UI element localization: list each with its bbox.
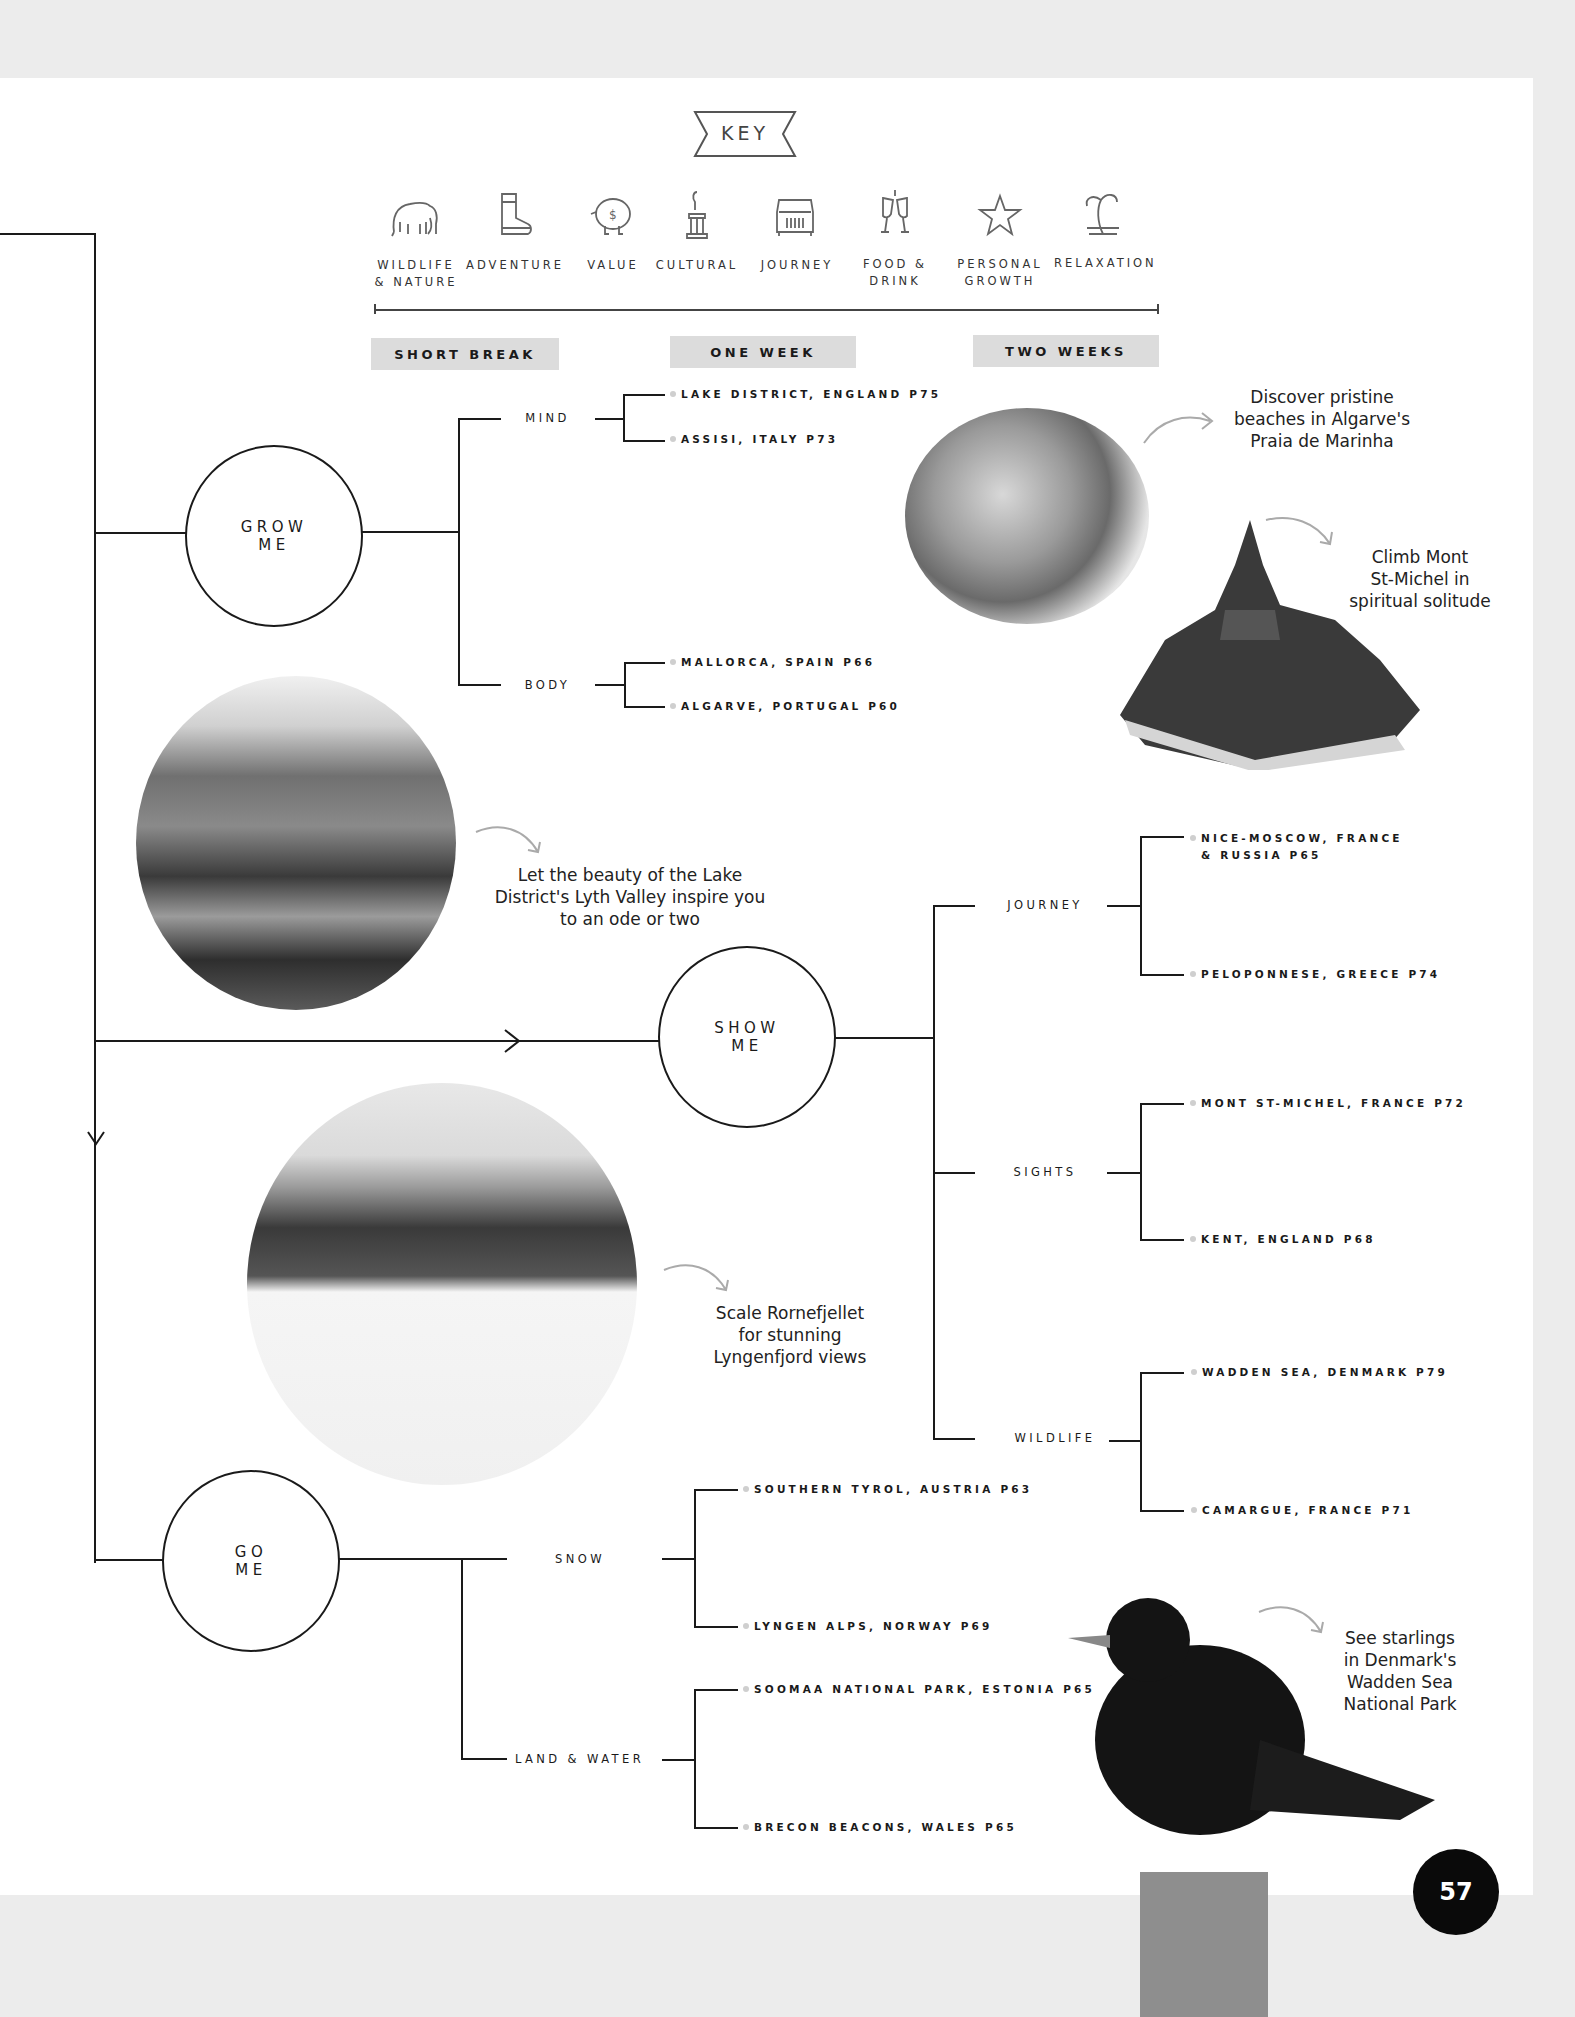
leaf-camargue[interactable]: CAMARGUE, FRANCE P71 (1191, 1504, 1413, 1516)
duration-scale-line (374, 309, 1158, 311)
bullet-dot (1190, 835, 1196, 841)
leaf-algarve[interactable]: ALGARVE, PORTUGAL P60 (670, 700, 900, 712)
key-label-personal-growth: PERSONALGROWTH (950, 256, 1050, 290)
bullet-dot (1190, 971, 1196, 977)
leaf-lake-district[interactable]: LAKE DISTRICT, ENGLAND P75 (670, 388, 941, 400)
branch-wildlife[interactable]: WILDLIFE (1000, 1431, 1110, 1445)
stub-leaf (694, 1689, 738, 1691)
connector-grow-right (362, 531, 460, 533)
node-grow-me[interactable]: GROWME (185, 445, 363, 627)
key-title: KEY (693, 122, 797, 144)
bullet-dot (670, 391, 676, 397)
stub-leaf (694, 1489, 738, 1491)
bracket-snow (694, 1489, 696, 1628)
bullet-dot (1190, 1100, 1196, 1106)
note-mont-st-michel: Climb MontSt-Michel inspiritual solitude (1330, 546, 1510, 612)
key-label-journey: JOURNEY (752, 257, 842, 274)
stub-leaf (694, 1827, 738, 1829)
bullet-dot (743, 1623, 749, 1629)
branch-mind[interactable]: MIND (505, 411, 590, 425)
bullet-dot (670, 703, 676, 709)
stub-leaf (694, 1626, 738, 1628)
stub-leaf (1140, 974, 1184, 976)
stub-leaf (1140, 1239, 1184, 1241)
leaf-lyngen-alps[interactable]: LYNGEN ALPS, NORWAY P69 (743, 1620, 993, 1632)
spine-entry (0, 233, 96, 235)
stub-body-out (595, 684, 624, 686)
bracket-wildlife (1140, 1372, 1142, 1512)
scale-tick-left (374, 304, 376, 314)
wine-glasses-icon (865, 188, 925, 244)
connector-go-left (94, 1559, 164, 1561)
note-lyngen: Scale Rornefjelletfor stunningLyngenfjor… (700, 1302, 880, 1368)
leaf-kent[interactable]: KENT, ENGLAND P68 (1190, 1233, 1376, 1245)
branch-snow[interactable]: SNOW (530, 1552, 630, 1566)
stub-body (458, 684, 501, 686)
duration-one-week: ONE WEEK (670, 336, 856, 368)
connector-grow-left (95, 532, 187, 534)
stub-leaf (1140, 1372, 1184, 1374)
branch-journey[interactable]: JOURNEY (985, 898, 1105, 912)
duration-short-break: SHORT BREAK (371, 338, 559, 370)
scale-tick-right (1157, 304, 1159, 314)
connector-go-right (339, 1558, 507, 1560)
note-starling: See starlingsin Denmark'sWadden SeaNatio… (1320, 1627, 1480, 1715)
stub-leaf (624, 706, 665, 708)
branch-body[interactable]: BODY (505, 678, 590, 692)
stub-mind (458, 418, 501, 420)
leaf-soomaa[interactable]: SOOMAA NATIONAL PARK, ESTONIA P65 (743, 1683, 1095, 1695)
stub-snow-out (662, 1558, 696, 1560)
bracket-go (461, 1558, 463, 1760)
bracket-journey (1140, 836, 1142, 976)
note-arrow-icon (660, 1260, 740, 1300)
leaf-southern-tyrol[interactable]: SOUTHERN TYROL, AUSTRIA P63 (743, 1483, 1032, 1495)
leaf-wadden-sea[interactable]: WADDEN SEA, DENMARK P79 (1191, 1366, 1448, 1378)
photo-lake-district (136, 676, 456, 1010)
leaf-mallorca[interactable]: MALLORCA, SPAIN P66 (670, 656, 875, 668)
node-show-me[interactable]: SHOWME (658, 946, 836, 1128)
bracket-sights (1140, 1103, 1142, 1241)
leaf-mont-st-michel[interactable]: MONT ST-MICHEL, FRANCE P72 (1190, 1097, 1466, 1109)
palm-tree-icon (1073, 186, 1133, 242)
stub-leaf (1140, 1510, 1184, 1512)
branch-sights[interactable]: SIGHTS (985, 1165, 1105, 1179)
stub-sights (933, 1172, 975, 1174)
stub-journey (933, 905, 975, 907)
leaf-nice-moscow[interactable]: NICE-MOSCOW, FRANCE& RUSSIA P65 (1190, 830, 1403, 864)
leaf-brecon-beacons[interactable]: BRECON BEACONS, WALES P65 (743, 1821, 1017, 1833)
leaf-assisi[interactable]: ASSISI, ITALY P73 (670, 433, 838, 445)
leaf-peloponnese[interactable]: PELOPONNESE, GREECE P74 (1190, 968, 1440, 980)
stub-land-out (662, 1759, 696, 1761)
page-number: 57 (1413, 1849, 1499, 1935)
bullet-dot (1190, 1236, 1196, 1242)
bullet-dot (670, 659, 676, 665)
bullet-dot (743, 1824, 749, 1830)
stub-mind-out (595, 418, 624, 420)
bracket-body (624, 662, 626, 708)
stub-leaf (624, 662, 665, 664)
bullet-dot (1191, 1507, 1197, 1513)
svg-text:$: $ (609, 208, 617, 222)
elephant-icon (386, 188, 446, 244)
connector-show-left (95, 1040, 660, 1042)
stub-sights-out (1107, 1172, 1142, 1174)
key-label-relaxation: RELAXATION (1054, 255, 1154, 272)
note-algarve: Discover pristinebeaches in Algarve'sPra… (1222, 386, 1422, 452)
boot-icon (484, 188, 544, 244)
stub-leaf (1140, 1103, 1184, 1105)
bullet-dot (743, 1686, 749, 1692)
note-lake-district: Let the beauty of the LakeDistrict's Lyt… (490, 864, 770, 930)
statue-icon (667, 188, 727, 244)
arrow-right-icon (503, 1028, 523, 1054)
node-go-me[interactable]: GOME (162, 1470, 340, 1652)
stub-land-water (461, 1758, 507, 1760)
key-label-value: VALUE (578, 257, 648, 274)
key-label-adventure: ADVENTURE (464, 257, 566, 274)
bracket-grow (458, 418, 460, 686)
bracket-mind (623, 394, 625, 442)
bullet-dot (670, 436, 676, 442)
note-arrow-icon (1140, 405, 1220, 445)
stub-leaf (1140, 836, 1184, 838)
photo-lyngen-skier (247, 1083, 637, 1485)
branch-land-water[interactable]: LAND & WATER (512, 1752, 647, 1766)
